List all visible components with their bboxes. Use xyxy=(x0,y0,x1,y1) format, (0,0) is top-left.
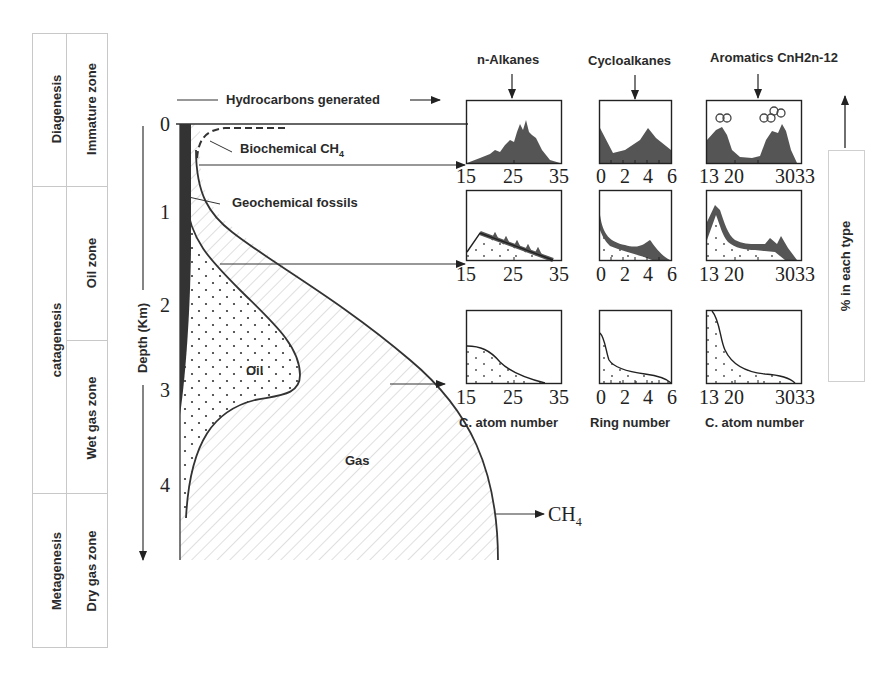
depth-tick-3: 3 xyxy=(160,379,170,402)
oil-label: Oil xyxy=(246,363,263,378)
panel-nalkanes-oil xyxy=(467,191,562,261)
panel-cycloalkanes-oil xyxy=(600,191,672,261)
xlabel-cycloalkanes: Ring number xyxy=(590,415,670,430)
panel-aromatics-immature xyxy=(707,101,802,164)
biochemical-ch4-label: Biochemical CH4 xyxy=(240,141,344,159)
depth-tick-2: 2 xyxy=(160,294,170,317)
panel-cycloalkanes-wetgas xyxy=(600,311,672,384)
panel-aromatics-wetgas xyxy=(707,311,802,384)
depth-axis-label: Depth (Km) xyxy=(135,288,151,388)
xlabel-n-alkanes: C. atom number xyxy=(459,415,558,430)
depth-tick-4: 4 xyxy=(160,474,170,497)
title-n-alkanes: n-Alkanes xyxy=(477,52,539,67)
depth-tick-0: 0 xyxy=(160,113,170,136)
gas-label: Gas xyxy=(345,453,370,468)
title-aromatics: Aromatics CnH2n-12 xyxy=(710,50,838,65)
title-cycloalkanes: Cycloalkanes xyxy=(588,53,671,68)
percent-each-type-label: % in each type xyxy=(838,206,854,326)
geochemical-fossils-label: Geochemical fossils xyxy=(232,195,358,210)
depth-tick-1: 1 xyxy=(160,201,170,224)
xlabel-aromatics: C. atom number xyxy=(705,415,804,430)
hydrocarbons-generated-label: Hydrocarbons generated xyxy=(226,92,380,107)
ch4-output-label: CH4 xyxy=(548,503,582,530)
panel-cycloalkanes-immature xyxy=(600,101,672,164)
panel-nalkanes-immature xyxy=(467,101,562,164)
panel-nalkanes-wetgas xyxy=(467,311,562,384)
panel-aromatics-oil xyxy=(707,191,802,261)
